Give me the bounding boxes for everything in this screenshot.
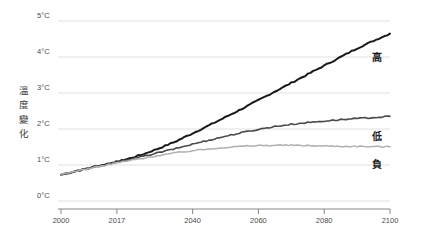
y-axis-title: 溫度變化 xyxy=(15,84,32,141)
series-line-負 xyxy=(61,145,390,175)
x-tick-label-2060: 2060 xyxy=(250,216,267,225)
chart-plot-area xyxy=(0,0,422,238)
y-tick-label-5C: 5°C xyxy=(37,11,50,20)
series-label-負: 負 xyxy=(372,156,382,171)
x-tick-label-2040: 2040 xyxy=(184,216,201,225)
x-tick-label-2080: 2080 xyxy=(316,216,333,225)
y-tick-label-3C: 3°C xyxy=(37,83,50,92)
series-label-低: 低 xyxy=(372,128,382,143)
data-series-group xyxy=(61,34,390,175)
temperature-change-line-chart: 溫度變化 0°C1°C2°C3°C4°C5°C 2000201720402060… xyxy=(0,0,422,238)
y-tick-label-2C: 2°C xyxy=(37,119,50,128)
x-tick-mark-group xyxy=(61,209,390,214)
x-tick-label-2000: 2000 xyxy=(53,216,70,225)
x-tick-label-2017: 2017 xyxy=(109,216,126,225)
y-tick-label-4C: 4°C xyxy=(37,47,50,56)
series-line-低 xyxy=(61,116,390,175)
y-tick-label-0C: 0°C xyxy=(37,191,50,200)
y-tick-label-1C: 1°C xyxy=(37,155,50,164)
gridline-group xyxy=(58,21,390,201)
x-tick-label-2100: 2100 xyxy=(382,216,399,225)
series-line-高 xyxy=(61,34,390,175)
series-label-高: 高 xyxy=(372,49,382,64)
